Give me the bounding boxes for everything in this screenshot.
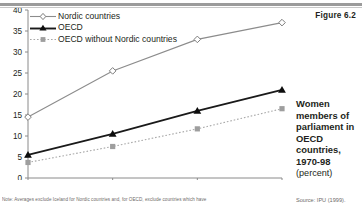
caption-line-6: 1970-98: [296, 156, 330, 167]
data-point-2-0: [25, 160, 30, 165]
legend-item-oecd: OECD: [30, 22, 177, 33]
top-rule-thick: [0, 3, 362, 6]
data-point-1-3: [278, 86, 286, 93]
series-line-2: [28, 109, 282, 163]
y-tick-label: 15: [13, 111, 23, 120]
caption-line-2: members of: [296, 110, 349, 121]
caption-line-5: countries,: [296, 144, 341, 155]
legend-item-nordic: Nordic countries: [30, 11, 177, 22]
y-tick-label: 5: [17, 153, 22, 162]
data-point-2-3: [279, 106, 284, 111]
y-tick-label: 10: [13, 132, 23, 141]
data-point-0-3: [279, 19, 286, 26]
diamond-open-icon: [30, 11, 56, 22]
figure-source: Source: IPU (1999).: [296, 197, 362, 203]
triangle-filled-icon: [30, 23, 56, 34]
y-tick-label: 25: [13, 69, 23, 78]
y-tick-label: 30: [13, 48, 23, 57]
figure-page: Figure 6.2 0510152025303540197019801990L…: [0, 0, 362, 206]
caption-line-1: Women: [296, 98, 330, 109]
data-point-2-2: [195, 126, 200, 131]
caption-units: (percent): [296, 168, 362, 180]
y-tick-label: 35: [13, 27, 23, 36]
y-tick-label: 20: [13, 90, 23, 99]
chart-legend: Nordic countries OECD OECD without Nordi…: [30, 11, 177, 45]
data-point-2-1: [110, 144, 115, 149]
square-filled-icon: [30, 34, 56, 45]
series-line-1: [28, 90, 282, 155]
legend-item-oecd-without-nordic: OECD without Nordic countries: [30, 34, 177, 45]
caption-line-3: parliament in: [296, 121, 354, 132]
figure-caption: Women members of parliament in OECD coun…: [296, 98, 362, 179]
data-point-0-1: [109, 68, 116, 75]
legend-label-oecd: OECD: [58, 22, 83, 33]
figure-note: Note: Averages exclude Iceland for Nordi…: [2, 197, 288, 202]
y-tick-label: 40: [13, 8, 23, 15]
data-point-0-2: [194, 36, 201, 43]
legend-label-oecd-without-nordic: OECD without Nordic countries: [58, 34, 177, 45]
y-tick-label: 0: [17, 174, 22, 180]
caption-line-4: OECD: [296, 133, 323, 144]
legend-label-nordic: Nordic countries: [58, 11, 120, 22]
figure-number: Figure 6.2: [315, 11, 356, 20]
